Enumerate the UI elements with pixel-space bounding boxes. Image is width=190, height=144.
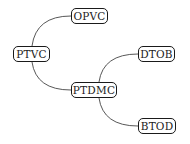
node-opvc: OPVC: [71, 8, 108, 24]
node-ptvc: PTVC: [13, 46, 50, 62]
edge-ptvc-ptdmc: [32, 62, 71, 90]
node-btod: BTOD: [138, 118, 176, 134]
edge-ptdmc-dtob: [99, 54, 138, 82]
edge-ptvc-opvc: [32, 16, 71, 46]
node-dtob: DTOB: [138, 46, 175, 62]
node-ptdmc: PTDMC: [71, 82, 117, 98]
edge-ptdmc-btod: [99, 98, 138, 126]
